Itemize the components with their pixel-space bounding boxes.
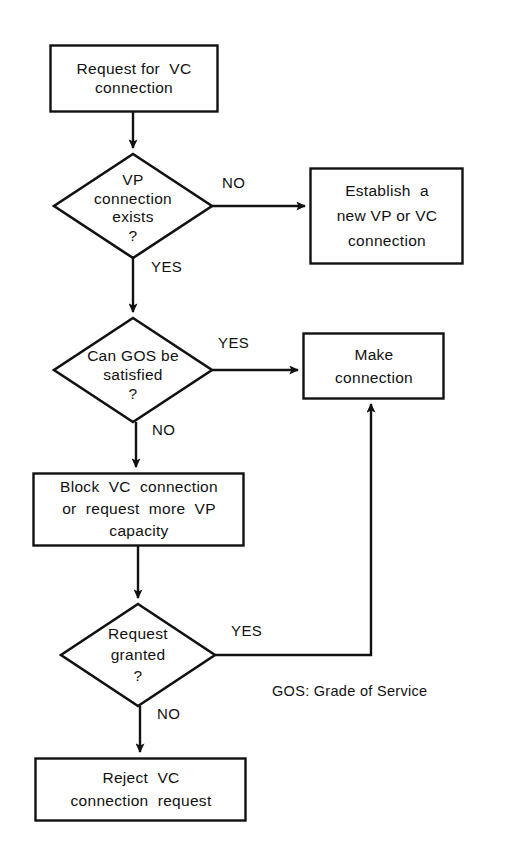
node-granted-shape xyxy=(61,604,215,706)
node-vp-exists-shape xyxy=(54,154,212,258)
edge-label-granted-no: NO xyxy=(157,705,180,722)
node-establish-shape xyxy=(311,169,463,264)
edge-label-gos-yes: YES xyxy=(218,334,249,351)
node-gos-shape xyxy=(54,318,212,422)
edge-label-vp-exists-no: NO xyxy=(222,174,245,191)
node-make-shape xyxy=(304,334,444,399)
edge-label-vp-exists-yes: YES xyxy=(151,258,182,275)
edge-label-granted-yes: YES xyxy=(231,622,262,639)
node-request-shape xyxy=(51,46,218,112)
flowchart-canvas: Request for VC connection VP connection … xyxy=(0,0,509,863)
node-reject-shape xyxy=(36,759,246,821)
node-block-shape xyxy=(34,474,244,546)
legend-gos-definition: GOS: Grade of Service xyxy=(272,683,427,699)
edge-label-gos-no: NO xyxy=(152,421,175,438)
flowchart-graphics xyxy=(0,0,509,863)
